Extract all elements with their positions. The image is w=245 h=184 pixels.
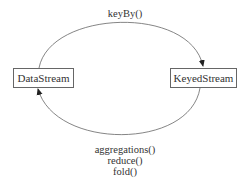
node-keyedstream: KeyedStream bbox=[170, 68, 237, 88]
node-datastream-label: DataStream bbox=[18, 72, 70, 84]
edge-keyby-arrow bbox=[39, 22, 203, 68]
node-keyedstream-label: KeyedStream bbox=[174, 72, 234, 84]
node-datastream: DataStream bbox=[13, 68, 74, 88]
edge-label-aggregations: aggregations() bbox=[85, 144, 165, 155]
edge-label-fold: fold() bbox=[85, 166, 165, 177]
edge-label-reduce: reduce() bbox=[85, 155, 165, 166]
edge-aggregations-arrow bbox=[38, 88, 200, 135]
edge-label-keyby: keyBy() bbox=[95, 8, 155, 19]
